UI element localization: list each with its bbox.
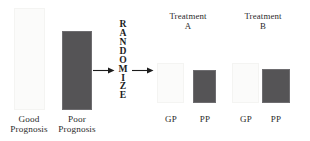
arrow-into-randomize-icon <box>93 66 115 75</box>
heading-treatment-a: Treatment A <box>155 12 221 32</box>
bar-poor-prognosis <box>62 31 92 110</box>
randomization-flow-diagram: Good Prognosis Poor Prognosis R A N D O … <box>0 0 310 141</box>
label-treatment-a-pp: PP <box>186 114 224 124</box>
bar-treatment-a-gp <box>157 63 184 103</box>
randomize-letter-e: E <box>115 91 131 100</box>
arrow-out-of-randomize-icon <box>132 66 154 75</box>
bar-treatment-a-pp <box>193 70 216 103</box>
bar-treatment-b-pp <box>262 69 290 103</box>
bar-treatment-b-gp <box>232 63 259 103</box>
randomize-label: R A N D O M I Z E <box>115 20 131 100</box>
label-treatment-a-gp: GP <box>152 114 190 124</box>
label-poor-prognosis: Poor Prognosis <box>48 114 106 135</box>
bar-good-prognosis <box>14 8 45 110</box>
heading-treatment-b: Treatment B <box>230 12 296 32</box>
label-treatment-b-pp: PP <box>257 114 295 124</box>
